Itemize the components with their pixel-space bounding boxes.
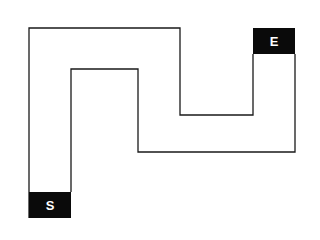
start-label: S (46, 198, 55, 213)
end-label: E (270, 34, 279, 49)
inner-wall (71, 54, 295, 192)
outer-wall (29, 28, 253, 218)
start-marker: S (29, 192, 71, 218)
end-marker: E (253, 28, 295, 54)
